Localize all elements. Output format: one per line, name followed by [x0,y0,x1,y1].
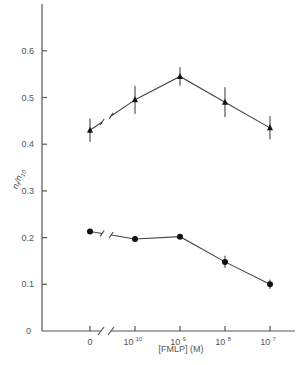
circle-marker [222,259,228,265]
series-line-circles [135,237,270,285]
circle-marker [267,281,273,287]
x-tick-label: 0 [87,337,92,347]
line-break-mark [100,119,104,125]
triangle-marker [177,73,183,79]
series-break-segment [111,100,135,116]
circle-marker [132,236,138,242]
y-tick-label: 0.6 [21,46,34,56]
x-tick-label: 10 8 [215,336,231,347]
series-line-triangles [135,76,270,127]
y-tick-label: 0.5 [21,93,34,103]
series-break-segment [111,235,135,239]
line-break-mark [109,113,113,119]
y-tick-label: 0 [26,326,31,336]
circle-marker [177,234,183,240]
axes: 00.10.20.30.40.50.6010 1010 910 810 7 [21,4,295,347]
y-tick-label: 0.1 [21,279,34,289]
x-tick-label: 10 7 [260,336,276,347]
triangle-marker [222,99,228,105]
data-series [87,67,273,289]
y-tick-label: 0.4 [21,139,34,149]
y-tick-label: 0.3 [21,186,34,196]
triangle-marker [267,124,273,130]
triangle-marker [87,127,93,133]
y-tick-label: 0.2 [21,233,34,243]
x-tick-label: 10 10 [124,336,144,347]
circle-marker [87,229,93,235]
series-break-segment [90,122,102,130]
chart: 00.10.20.30.40.50.6010 1010 910 810 7 [F… [0,0,300,365]
x-axis-title: [FMLP] (M) [159,344,204,354]
